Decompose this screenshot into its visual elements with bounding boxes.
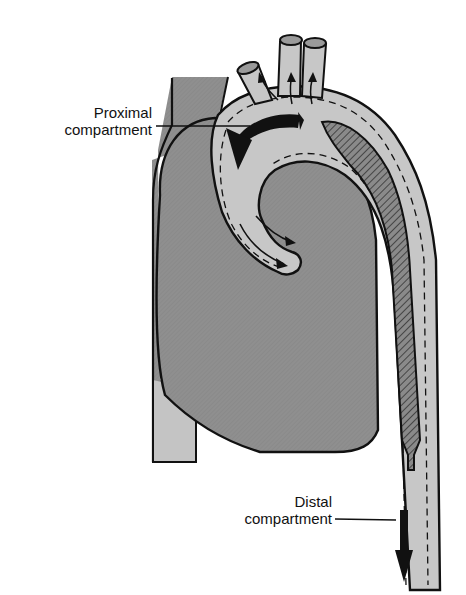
proximal-compartment-label: Proximal compartment [20, 104, 152, 138]
arch-branches [236, 35, 326, 104]
proximal-label-line1: Proximal [20, 104, 152, 121]
distal-label-line1: Distal [180, 493, 332, 510]
distal-label-line2: compartment [180, 510, 332, 527]
proximal-label-line2: compartment [20, 121, 152, 138]
distal-compartment-label: Distal compartment [180, 493, 332, 527]
distal-leader-line [335, 519, 396, 520]
